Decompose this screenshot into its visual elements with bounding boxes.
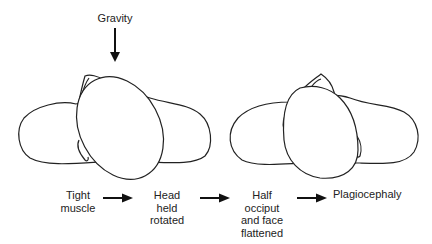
- step-line: and face: [238, 214, 286, 227]
- step-line: Head: [145, 189, 189, 202]
- step-line: muscle: [58, 202, 98, 215]
- left-figure: [19, 62, 211, 195]
- flow-arrow-3: [297, 194, 327, 203]
- flow-arrow-2: [200, 194, 230, 203]
- step-half-occiput-flattened: Half occiput and face flattened: [238, 189, 286, 239]
- flow-arrow-1: [103, 194, 133, 203]
- step-head-held-rotated: Head held rotated: [145, 189, 189, 227]
- step-plagiocephaly: Plagiocephaly: [333, 188, 402, 201]
- step-line: rotated: [145, 214, 189, 227]
- gravity-arrow: [110, 28, 120, 62]
- gravity-label: Gravity: [95, 12, 135, 25]
- step-line: flattened: [238, 227, 286, 240]
- step-line: Half: [238, 189, 286, 202]
- step-tight-muscle: Tight muscle: [58, 189, 98, 214]
- step-line: Tight: [58, 189, 98, 202]
- step-line: held: [145, 202, 189, 215]
- step-line: Plagiocephaly: [333, 188, 402, 201]
- right-figure: [230, 74, 418, 178]
- step-line: occiput: [238, 202, 286, 215]
